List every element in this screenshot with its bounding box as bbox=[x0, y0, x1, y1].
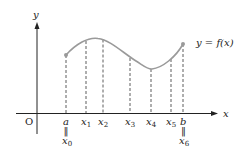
tick-x2: x2 bbox=[98, 116, 108, 129]
curve-start-point bbox=[64, 53, 68, 57]
tick-x3: x3 bbox=[125, 116, 135, 129]
x-axis-arrow-icon bbox=[211, 111, 218, 116]
y-axis-arrow-icon bbox=[35, 22, 40, 29]
y-axis-label: y bbox=[32, 9, 39, 20]
curve-end-point bbox=[181, 42, 185, 46]
tick-x1: x1 bbox=[81, 116, 91, 129]
origin-label: O bbox=[25, 116, 33, 127]
tick-x0: x0 bbox=[62, 135, 72, 148]
riemann-partition-diagram: y x O y = f(x) a ‖ x0 x1 x2 x3 x4 x5 b ‖… bbox=[0, 0, 245, 156]
function-curve bbox=[66, 38, 183, 69]
curve-label: y = f(x) bbox=[195, 37, 234, 48]
x-axis-label: x bbox=[223, 108, 229, 119]
tick-x4: x4 bbox=[146, 116, 157, 129]
tick-x5: x5 bbox=[166, 116, 176, 129]
tick-x6: x6 bbox=[179, 135, 190, 148]
partition-lines bbox=[66, 40, 183, 114]
